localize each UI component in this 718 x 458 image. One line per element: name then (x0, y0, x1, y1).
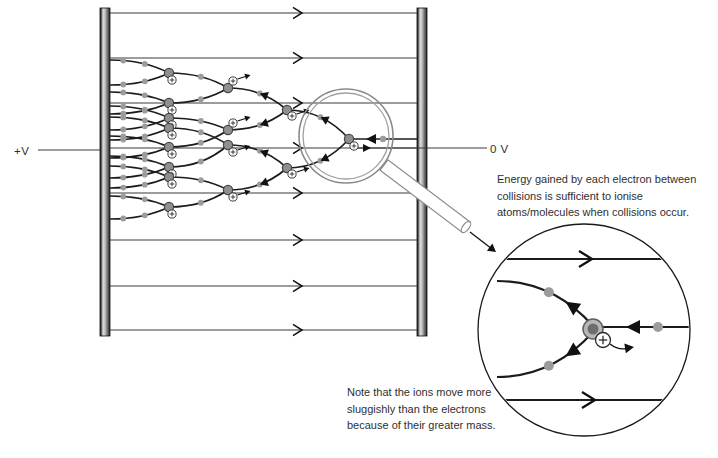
mass-note: Note that the ions move more sluggishly … (347, 384, 507, 434)
electron-dot (198, 140, 204, 146)
electron-dot (120, 82, 126, 88)
right-plate (417, 8, 427, 336)
avalanche-branch (110, 92, 169, 103)
inset-electron-dot (544, 287, 554, 297)
ion-arrow-icon (303, 167, 309, 173)
right-voltage-label: 0 V (490, 141, 509, 158)
avalanche-branch (110, 60, 169, 73)
electron-dot (142, 78, 148, 84)
avalanche-branch (110, 207, 169, 219)
avalanche-branch (228, 110, 287, 130)
inset-group (478, 224, 692, 436)
electron-dot (120, 137, 126, 143)
electron-dot (120, 194, 126, 200)
electron-dot (142, 133, 148, 139)
electron-dot (120, 216, 126, 222)
figure-canvas: +V 0 V Energy gained by each electron be… (0, 0, 718, 458)
electron-dot (120, 58, 126, 64)
electron-dot (120, 104, 126, 110)
electron-dot (120, 164, 126, 170)
avalanche-branch (228, 168, 287, 190)
electron-dot (120, 185, 126, 191)
electron-dot (198, 159, 204, 165)
seed-arrow-icon (366, 134, 376, 144)
electron-dot (142, 182, 148, 188)
avalanche-tree-group (110, 58, 417, 222)
electron-dot (142, 61, 148, 67)
electron-dot (142, 172, 148, 178)
ion-arrow-icon (244, 116, 250, 122)
electron-dot (142, 117, 148, 123)
electron-dot (142, 92, 148, 98)
electron-dot (142, 166, 148, 172)
electron-dot (120, 175, 126, 181)
electron-dot (198, 200, 204, 206)
electron-dot (198, 177, 204, 183)
pointer-arrow-icon (487, 244, 496, 252)
avalanche-branch (110, 196, 169, 207)
avalanche-branch (110, 73, 169, 85)
electron-dot (120, 127, 126, 133)
ion-arrow-icon (244, 74, 250, 80)
electron-dot (120, 90, 126, 96)
ion-arrow-line (238, 119, 246, 122)
avalanche-branch (287, 139, 349, 168)
ion-arrow-line (238, 77, 246, 80)
inset-electron-dot (653, 322, 663, 332)
inset-electron-dot (544, 361, 554, 371)
energy-note: Energy gained by each electron between c… (497, 171, 701, 221)
electron-dot (198, 74, 204, 80)
avalanche-branch (228, 88, 287, 110)
electron-dot (142, 156, 148, 162)
electron-dot (142, 107, 148, 113)
pointer-arrow-line (470, 232, 492, 249)
electron-dot (120, 115, 126, 121)
ion-arrow-line (297, 170, 305, 173)
electron-dot (198, 129, 204, 135)
electron-dot (198, 118, 204, 124)
left-plate (100, 8, 110, 336)
inset-atom-core (588, 324, 599, 335)
left-voltage-label: +V (14, 143, 29, 160)
ion-drift-arrow-icon (363, 144, 371, 152)
plates-group (100, 8, 427, 336)
magnifier-group (299, 89, 496, 252)
electron-dot (142, 196, 148, 202)
electron-dot (120, 154, 126, 160)
electron-dot (142, 123, 148, 129)
avalanche-branch (287, 110, 349, 139)
electron-dot (380, 136, 386, 142)
electron-dot (198, 96, 204, 102)
electron-dot (142, 212, 148, 218)
